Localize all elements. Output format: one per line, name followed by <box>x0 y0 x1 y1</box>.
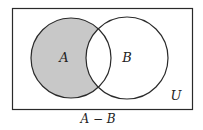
venn-diagram: A B U A − B <box>0 0 203 130</box>
universe-label: U <box>171 88 183 103</box>
diagram-caption: A − B <box>79 112 115 126</box>
set-a-label: A <box>58 50 68 65</box>
set-b-label: B <box>121 50 132 65</box>
